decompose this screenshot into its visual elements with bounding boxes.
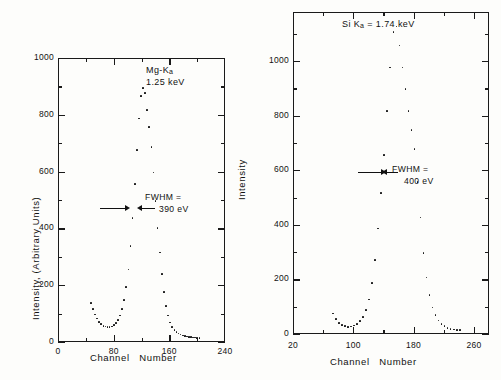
data-point: [347, 326, 349, 328]
y-minor-tick: [221, 143, 225, 144]
y-minor-tick: [293, 143, 297, 144]
data-point: [341, 324, 343, 326]
xtick-label: 260: [456, 340, 492, 350]
data-point: [136, 149, 138, 151]
y-major-tick: [218, 285, 225, 286]
y-major-tick: [482, 116, 489, 117]
y-minor-tick: [58, 314, 62, 315]
left-x-axis-title: Channel Number: [90, 352, 177, 363]
data-point: [171, 326, 173, 328]
y-major-tick: [58, 172, 65, 173]
y-minor-tick: [221, 200, 225, 201]
data-point: [350, 326, 352, 328]
left-peak-subscript: a: [169, 68, 173, 75]
ytick-label: 0: [22, 336, 54, 346]
x-major-tick: [414, 327, 415, 334]
left-fwhm-value-text: 390 eV: [159, 204, 189, 216]
x-minor-tick: [444, 12, 445, 16]
y-major-tick: [218, 342, 225, 343]
y-minor-tick: [293, 88, 297, 89]
data-point: [117, 319, 119, 321]
y-major-tick: [218, 115, 225, 116]
x-minor-tick: [86, 338, 87, 342]
data-point: [142, 87, 144, 89]
right-peak-energy-text: = 1.74 keV: [364, 19, 414, 29]
y-major-tick: [482, 225, 489, 226]
x-minor-tick: [197, 58, 198, 62]
data-point: [151, 146, 153, 148]
data-point: [365, 309, 367, 311]
right-fwhm-arrow-right: [386, 172, 398, 173]
data-point: [371, 282, 373, 284]
data-point: [374, 259, 376, 261]
y-minor-tick: [485, 34, 489, 35]
xtick-label: 240: [207, 346, 243, 356]
right-fwhm-value-text: 400 eV: [404, 176, 434, 188]
left-panel: 02004006008001000 080160240 Intensity, (…: [0, 0, 250, 380]
x-minor-tick: [142, 338, 143, 342]
xtick-label: 0: [40, 346, 76, 356]
x-minor-tick: [383, 12, 384, 16]
y-major-tick: [293, 334, 300, 335]
left-fwhm-arrow-left: [100, 208, 126, 209]
y-major-tick: [293, 170, 300, 171]
ytick-label: 600: [257, 164, 289, 174]
y-minor-tick: [485, 252, 489, 253]
y-major-tick: [58, 58, 65, 59]
data-point: [144, 92, 146, 94]
data-point: [453, 329, 455, 331]
right-panel: 02004006008001000 20100180260 Intensity …: [250, 0, 501, 380]
y-minor-tick: [221, 86, 225, 87]
y-major-tick: [58, 228, 65, 229]
data-point: [115, 322, 117, 324]
y-minor-tick: [58, 200, 62, 201]
xtick-label: 100: [335, 340, 371, 350]
y-minor-tick: [293, 307, 297, 308]
data-point: [163, 291, 165, 293]
y-major-tick: [482, 334, 489, 335]
data-point: [456, 329, 458, 331]
left-peak-annotation: Mg-Ka 1.25 keV: [146, 64, 185, 89]
data-point: [113, 324, 115, 326]
y-major-tick: [293, 279, 300, 280]
y-minor-tick: [58, 143, 62, 144]
y-minor-tick: [58, 257, 62, 258]
x-minor-tick: [323, 330, 324, 334]
data-point: [338, 322, 340, 324]
x-minor-tick: [383, 330, 384, 334]
y-minor-tick: [221, 257, 225, 258]
x-minor-tick: [197, 338, 198, 342]
y-major-tick: [482, 279, 489, 280]
data-point: [344, 325, 346, 327]
left-fwhm-arrow-right: [141, 208, 155, 209]
left-y-axis-title: Intensity, (Arbitrary Units): [30, 197, 41, 320]
data-point: [362, 316, 364, 318]
y-major-tick: [58, 285, 65, 286]
data-point: [356, 323, 358, 325]
x-major-tick: [353, 327, 354, 334]
y-major-tick: [218, 228, 225, 229]
xtick-label: 20: [275, 340, 311, 350]
y-minor-tick: [221, 314, 225, 315]
right-peak-element-text: Si K: [342, 19, 360, 29]
y-major-tick: [58, 115, 65, 116]
y-minor-tick: [485, 88, 489, 89]
left-fwhm-annotation: FWHM = 390 eV: [145, 192, 189, 215]
data-point: [92, 308, 94, 310]
figure-canvas: 02004006008001000 080160240 Intensity, (…: [0, 0, 501, 380]
left-y-axis-title-text: Intensity, (Arbitrary Units): [30, 197, 41, 320]
ytick-label: 600: [22, 166, 54, 176]
y-minor-tick: [293, 198, 297, 199]
x-minor-tick: [323, 12, 324, 16]
left-x-axis-title-part1: Channel: [90, 352, 130, 363]
x-minor-tick: [444, 330, 445, 334]
x-minor-tick: [86, 58, 87, 62]
data-point: [161, 273, 163, 275]
y-minor-tick: [293, 34, 297, 35]
data-point: [196, 337, 198, 339]
x-minor-tick: [142, 58, 143, 62]
right-x-axis-title: Channel Number: [330, 356, 417, 367]
left-plot-frame: [58, 58, 225, 342]
ytick-label: 0: [257, 328, 289, 338]
data-point: [90, 302, 92, 304]
